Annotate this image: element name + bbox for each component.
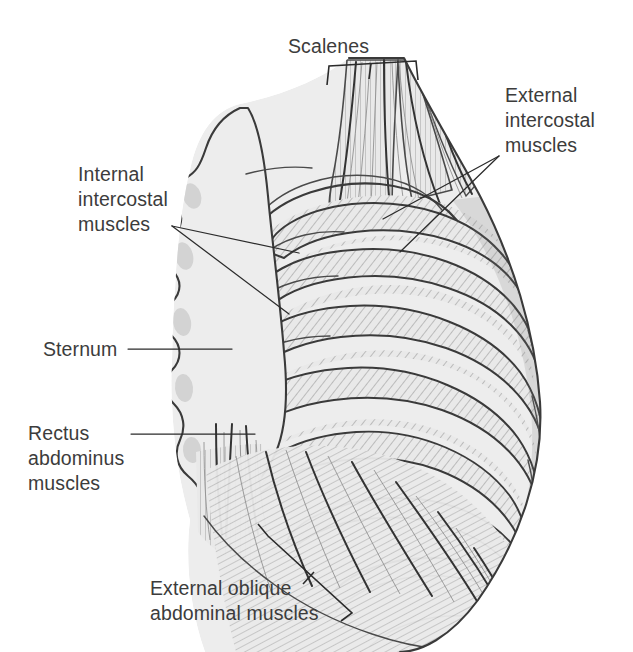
label-rectus-abdominus: Rectus abdominus muscles [28,422,130,494]
anatomy-figure-page: Scalenes External intercostal muscles In… [0,0,633,652]
torso-body [165,58,544,652]
label-sternum: Sternum [43,338,117,360]
label-external-intercostal: External intercostal muscles [505,84,601,156]
label-scalenes: Scalenes [288,35,369,57]
thoracic-anatomy-illustration: Scalenes External intercostal muscles In… [0,0,633,652]
label-internal-intercostal: Internal intercostal muscles [78,163,174,235]
